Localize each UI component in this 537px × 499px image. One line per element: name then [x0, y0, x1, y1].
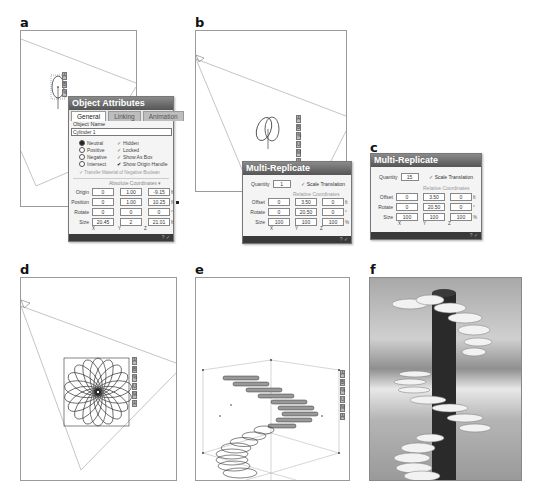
rotate-x-field[interactable]: 0	[268, 208, 290, 216]
panel-label-a: a	[20, 15, 29, 30]
option-label: Negative	[87, 154, 107, 160]
unit-label: ft	[171, 200, 174, 205]
option-label: Intersect	[87, 161, 106, 167]
quantity-input[interactable]: 1	[273, 180, 291, 188]
row-size: Size 100 100 100 %	[245, 218, 349, 226]
size-y-field[interactable]: 100	[423, 213, 445, 221]
size-z-field[interactable]: 21.01	[148, 218, 170, 226]
object-name-input[interactable]: Cylinder 1	[71, 128, 172, 136]
rotate-y-field[interactable]: 0	[120, 208, 142, 216]
boolean-options: Neutral Positive Negative Intersect	[79, 139, 107, 167]
offset-z-field[interactable]: 0	[322, 198, 344, 206]
position-x-field[interactable]: 0	[92, 198, 114, 206]
checkbox-transfer-material[interactable]: ✓ Transfer Material of Negative Boolean	[79, 170, 160, 175]
origin-z-field[interactable]: -9.15	[148, 188, 170, 196]
side-button[interactable]: A	[340, 413, 345, 421]
size-y-field[interactable]: 2	[120, 218, 142, 226]
side-button[interactable]: %	[340, 387, 345, 395]
rotate-y-field[interactable]: 20.50	[423, 203, 445, 211]
quantity-input[interactable]: 15	[401, 173, 419, 181]
offset-x-field[interactable]: 0	[396, 193, 418, 201]
row-size: Size 100 100 100 %	[373, 213, 477, 221]
tab-general[interactable]: General	[71, 111, 106, 121]
lock-icon[interactable]	[176, 201, 179, 204]
side-button[interactable]: A	[62, 72, 67, 80]
side-button[interactable]: %	[132, 374, 137, 382]
row-label: Size	[373, 214, 393, 220]
size-y-field[interactable]: 100	[295, 218, 317, 226]
side-button[interactable]: M	[132, 391, 137, 399]
side-button[interactable]: A	[132, 400, 137, 408]
side-button[interactable]: U	[340, 396, 345, 404]
option-label: Neutral	[87, 140, 103, 146]
checkbox-locked[interactable]: ✓	[117, 147, 121, 153]
scale-translation-checkbox[interactable]: ✓	[301, 181, 305, 187]
coords-dropdown[interactable]: Absolute Coordinates ▾	[109, 180, 161, 186]
rotate-x-field[interactable]: 0	[92, 208, 114, 216]
axis-y-label: Y	[423, 221, 426, 226]
checkbox-show-as-box[interactable]: ✓	[117, 154, 121, 160]
row-label: Rotate	[373, 204, 393, 210]
side-button[interactable]: A	[340, 370, 345, 378]
position-z-field[interactable]: 10.25	[148, 198, 170, 206]
size-z-field[interactable]: 100	[450, 213, 472, 221]
rotate-x-field[interactable]: 0	[396, 203, 418, 211]
size-x-field[interactable]: 100	[396, 213, 418, 221]
dialog-title: Multi-Replicate	[371, 154, 481, 167]
row-offset: Offset 0 3.50 0 ft	[245, 198, 348, 206]
side-button[interactable]: %	[296, 132, 301, 140]
quantity-row: Quantity 15 ✓ Scale Translation	[379, 173, 473, 181]
scale-translation-checkbox[interactable]: ✓	[429, 174, 433, 180]
tab-linking[interactable]: Linking	[108, 111, 141, 121]
size-x-field[interactable]: 20.45	[92, 218, 114, 226]
tab-bar: General Linking Animation	[69, 110, 173, 121]
side-button[interactable]: U	[296, 141, 301, 149]
unit-label: %	[473, 215, 477, 220]
help-ok-icons[interactable]: ? ✓	[470, 232, 478, 239]
size-z-field[interactable]: 100	[322, 218, 344, 226]
offset-y-field[interactable]: 3.50	[295, 198, 317, 206]
row-rotate: Rotate 0 20.50 0 °	[373, 203, 475, 211]
position-y-field[interactable]: 1.00	[120, 198, 142, 206]
help-ok-icons[interactable]: ? ✓	[162, 234, 170, 241]
rotate-z-field[interactable]: 0	[322, 208, 344, 216]
side-button[interactable]: M	[340, 404, 345, 412]
rotate-z-field[interactable]: 0	[450, 203, 472, 211]
side-button[interactable]: U	[132, 383, 137, 391]
side-button[interactable]: B	[340, 379, 345, 387]
radio-negative[interactable]	[79, 154, 85, 160]
size-x-field[interactable]: 100	[268, 218, 290, 226]
rotate-y-field[interactable]: 20.50	[295, 208, 317, 216]
offset-x-field[interactable]: 0	[268, 198, 290, 206]
option-label: Positive	[87, 147, 105, 153]
help-ok-icons[interactable]: ? ✓	[340, 236, 348, 243]
radio-positive[interactable]	[79, 147, 85, 153]
axis-y-label: Y	[295, 226, 298, 231]
side-button[interactable]: B	[62, 81, 67, 89]
radio-intersect[interactable]	[79, 161, 85, 167]
checkbox-hidden[interactable]: ✓	[117, 140, 121, 146]
checkbox-show-origin-handle[interactable]: ✔	[117, 161, 121, 167]
toolbar-side-b: A B % U M A	[296, 115, 301, 166]
radio-neutral[interactable]	[79, 140, 85, 146]
offset-y-field[interactable]: 3.50	[423, 193, 445, 201]
row-label: Position	[71, 199, 89, 205]
side-button[interactable]: B	[296, 124, 301, 132]
side-button[interactable]: A	[132, 357, 137, 365]
toolbar-side-e: A B % U M A	[340, 370, 345, 421]
unit-label: ft	[171, 190, 174, 195]
origin-x-field[interactable]: 0	[92, 188, 114, 196]
side-button[interactable]: M	[296, 149, 301, 157]
origin-y-field[interactable]: 1.00	[120, 188, 142, 196]
tab-animation[interactable]: Animation	[143, 111, 184, 121]
side-button[interactable]: A	[296, 115, 301, 123]
side-button[interactable]: %	[62, 89, 67, 97]
rotate-z-field[interactable]: 0	[148, 208, 170, 216]
option-label: Hidden	[123, 140, 139, 146]
row-offset: Offset 0 3.50 0 ft	[373, 193, 476, 201]
viewport-e[interactable]	[195, 277, 350, 481]
row-label: Rotate	[71, 209, 89, 215]
offset-z-field[interactable]: 0	[450, 193, 472, 201]
viewport-d[interactable]	[20, 277, 177, 481]
side-button[interactable]: B	[132, 366, 137, 374]
